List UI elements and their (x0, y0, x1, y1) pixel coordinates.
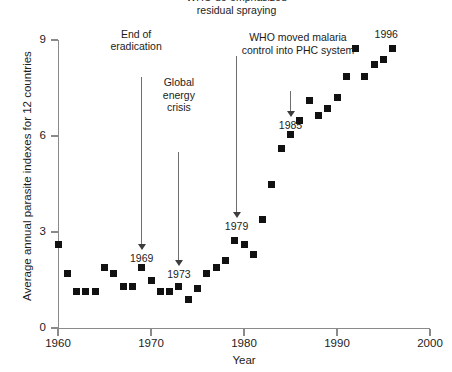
data-point (334, 94, 341, 101)
data-point (268, 181, 275, 188)
data-point (306, 97, 313, 104)
annotation-arrowhead-who-de-emphasized-residual-spraying (233, 212, 241, 218)
data-point (203, 270, 210, 277)
x-tick-2000 (429, 329, 430, 336)
x-axis-title: Year (58, 354, 430, 366)
data-point (241, 241, 248, 248)
data-point (287, 131, 294, 138)
data-point (324, 105, 331, 112)
data-point (213, 264, 220, 271)
y-tick-6 (51, 135, 58, 136)
annotation-arrow-who-de-emphasized-residual-spraying (236, 56, 237, 213)
annotation-arrow-global-energy-crisis (178, 152, 179, 261)
annotation-year-label-1969: 1969 (117, 252, 167, 264)
annotation-arrowhead-end-of-eradication (138, 244, 146, 250)
data-point (129, 283, 136, 290)
data-point (343, 73, 350, 80)
data-point (73, 288, 80, 295)
data-point (64, 270, 71, 277)
data-point (231, 237, 238, 244)
x-tick-label-1990: 1990 (307, 338, 367, 350)
x-tick-label-1970: 1970 (121, 338, 181, 350)
data-point (157, 288, 164, 295)
annotation-arrow-who-moved-malaria-control-into-phc-system (290, 91, 291, 112)
data-point (361, 73, 368, 80)
data-point (82, 288, 89, 295)
data-point (194, 285, 201, 292)
x-tick-1970 (150, 329, 151, 336)
annotation-year-label-1973: 1973 (154, 268, 204, 280)
data-point (250, 251, 257, 258)
x-tick-1960 (57, 329, 58, 336)
data-point (315, 112, 322, 119)
data-point (371, 61, 378, 68)
data-point (222, 257, 229, 264)
x-tick-label-1960: 1960 (28, 338, 88, 350)
annotation-text-end-of-eradication: End of eradication (66, 28, 206, 53)
data-point (380, 56, 387, 63)
data-point (175, 283, 182, 290)
chart-figure: 0369 19601970198019902000 Average annual… (0, 0, 452, 372)
y-axis-title: Average annual parasite indexes for 12 c… (21, 31, 33, 321)
data-point (278, 145, 285, 152)
data-point (92, 288, 99, 295)
data-point (138, 264, 145, 271)
data-point (166, 288, 173, 295)
data-point (185, 296, 192, 303)
annotation-arrowhead-global-energy-crisis (175, 260, 183, 266)
data-point (120, 283, 127, 290)
data-point (389, 45, 396, 52)
annotation-text-who-moved-malaria-control-into-phc-system: WHO moved malaria control into PHC syste… (228, 31, 368, 56)
x-tick-1980 (243, 329, 244, 336)
annotation-year-label-1979: 1979 (212, 220, 262, 232)
y-tick-3 (51, 231, 58, 232)
data-point (101, 264, 108, 271)
annotation-year-label-1985: 1985 (266, 119, 316, 131)
data-point (110, 270, 117, 277)
annotation-arrowhead-who-moved-malaria-control-into-phc-system (287, 111, 295, 117)
annotation-text-global-energy-crisis: Global energy crisis (109, 76, 249, 114)
data-label-1996: 1996 (361, 28, 411, 40)
x-tick-label-1980: 1980 (214, 338, 274, 350)
y-tick-9 (51, 39, 58, 40)
annotation-text-who-de-emphasized-residual-spraying: WHO de-emphasized residual spraying (167, 0, 307, 16)
y-tick-label-0: 0 (0, 322, 46, 334)
data-point (55, 241, 62, 248)
x-tick-label-2000: 2000 (400, 338, 452, 350)
x-tick-1990 (336, 329, 337, 336)
y-axis-line (58, 40, 59, 329)
